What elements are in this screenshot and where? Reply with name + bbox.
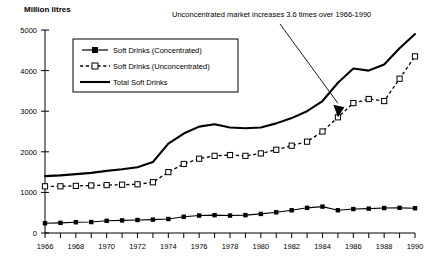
data-point-concentrated <box>413 206 417 210</box>
y-axis-title: Million litres <box>24 5 71 14</box>
annotation-label: Unconcentrated market increases 3.6 time… <box>172 10 371 19</box>
data-point-unconcentrated <box>366 96 371 101</box>
x-tick-label: 1984 <box>314 242 331 251</box>
data-point-concentrated <box>89 220 93 224</box>
data-point-concentrated <box>382 206 386 210</box>
data-point-unconcentrated <box>351 100 356 105</box>
data-point-unconcentrated <box>397 76 402 81</box>
y-tick-label: 0 <box>33 229 37 238</box>
data-point-concentrated <box>397 206 401 210</box>
data-point-unconcentrated <box>58 184 63 189</box>
chart-legend: Soft Drinks (Concentrated) Soft Drinks (… <box>73 39 238 92</box>
x-tick-label: 1988 <box>376 242 393 251</box>
legend-label-concentrated: Soft Drinks (Concentrated) <box>113 46 202 55</box>
data-point-concentrated <box>120 218 124 222</box>
data-point-unconcentrated <box>104 182 109 187</box>
data-point-unconcentrated <box>166 170 171 175</box>
x-tick-label: 1982 <box>283 242 300 251</box>
x-axis-ticks <box>45 233 415 238</box>
data-point-concentrated <box>104 219 108 223</box>
legend-label-unconcentrated: Soft Drinks (Unconcentrated) <box>113 62 210 71</box>
legend-label-total: Total Soft Drinks <box>113 78 168 87</box>
x-axis-tick-labels: 1966196819701972197419761978198019821984… <box>37 242 424 251</box>
x-tick-label: 1990 <box>407 242 424 251</box>
x-tick-label: 1970 <box>98 242 115 251</box>
data-point-concentrated <box>228 213 232 217</box>
data-point-unconcentrated <box>304 139 309 144</box>
x-tick-label: 1972 <box>129 242 146 251</box>
y-tick-label: 1000 <box>20 188 37 197</box>
data-point-unconcentrated <box>150 180 155 185</box>
data-point-unconcentrated <box>274 147 279 152</box>
data-point-unconcentrated <box>212 153 217 158</box>
chart-container: Million litres 010002000300040005000 196… <box>0 0 426 258</box>
data-point-unconcentrated <box>89 183 94 188</box>
data-point-concentrated <box>135 218 139 222</box>
data-point-concentrated <box>351 207 355 211</box>
data-point-concentrated <box>182 215 186 219</box>
markers-concentrated <box>43 204 417 225</box>
data-point-concentrated <box>74 220 78 224</box>
x-tick-label: 1976 <box>191 242 208 251</box>
y-tick-label: 2000 <box>20 148 37 157</box>
x-tick-label: 1978 <box>222 242 239 251</box>
data-point-concentrated <box>336 208 340 212</box>
y-tick-label: 5000 <box>20 26 37 35</box>
data-point-unconcentrated <box>73 183 78 188</box>
x-tick-label: 1974 <box>160 242 177 251</box>
data-point-unconcentrated <box>227 152 232 157</box>
data-point-concentrated <box>320 204 324 208</box>
data-point-concentrated <box>58 221 62 225</box>
annotation-leader-line <box>280 24 344 117</box>
data-point-unconcentrated <box>135 182 140 187</box>
y-tick-label: 4000 <box>20 67 37 76</box>
x-tick-label: 1980 <box>252 242 269 251</box>
data-point-unconcentrated <box>197 156 202 161</box>
data-point-unconcentrated <box>289 143 294 148</box>
data-point-concentrated <box>367 206 371 210</box>
data-point-concentrated <box>212 213 216 217</box>
data-point-unconcentrated <box>412 54 417 59</box>
y-tick-label: 3000 <box>20 107 37 116</box>
data-point-unconcentrated <box>181 161 186 166</box>
data-point-concentrated <box>274 210 278 214</box>
data-point-concentrated <box>243 213 247 217</box>
data-point-concentrated <box>259 212 263 216</box>
data-point-unconcentrated <box>243 153 248 158</box>
data-point-concentrated <box>305 206 309 210</box>
x-tick-label: 1968 <box>67 242 84 251</box>
data-point-concentrated <box>151 217 155 221</box>
x-tick-label: 1966 <box>37 242 54 251</box>
data-point-concentrated <box>197 213 201 217</box>
data-point-concentrated <box>43 221 47 225</box>
data-point-unconcentrated <box>320 129 325 134</box>
soft-drinks-line-chart: Million litres 010002000300040005000 196… <box>0 0 426 258</box>
data-point-unconcentrated <box>258 151 263 156</box>
data-point-concentrated <box>166 217 170 221</box>
data-point-concentrated <box>289 208 293 212</box>
data-point-unconcentrated <box>119 182 124 187</box>
x-tick-label: 1986 <box>345 242 362 251</box>
data-point-unconcentrated <box>42 184 47 189</box>
data-point-unconcentrated <box>382 98 387 103</box>
